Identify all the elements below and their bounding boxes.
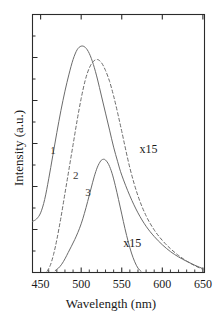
plot-canvas: [0, 0, 222, 319]
x-tick-label-500: 500: [61, 277, 101, 292]
curve-label-3: 3: [85, 186, 91, 198]
x-tick-label-600: 600: [142, 277, 182, 292]
x-tick-label-450: 450: [21, 277, 61, 292]
curve-label-2: 2: [73, 169, 79, 181]
axis-ticks: [33, 15, 203, 273]
spectra-figure: 450500550600650 123 x15x15 Wavelength (n…: [0, 0, 222, 319]
x-tick-label-650: 650: [183, 277, 222, 292]
curve-label-1: 1: [50, 144, 56, 156]
x-axis-title: Wavelength (nm): [0, 296, 222, 312]
x-tick-label-550: 550: [102, 277, 142, 292]
curve-3: [55, 159, 141, 271]
scale-annotation-lower: x15: [123, 236, 141, 251]
scale-annotation-upper: x15: [140, 142, 158, 157]
plot-frame: [33, 15, 205, 273]
y-axis-title: Intensity (a.u.): [11, 78, 27, 218]
data-curves: [33, 46, 203, 272]
